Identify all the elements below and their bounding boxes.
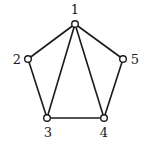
node-1 [72, 21, 79, 28]
node-label-1: 1 [71, 2, 79, 17]
node-label-2: 2 [13, 52, 21, 67]
node-label-3: 3 [44, 125, 52, 140]
edge-1-4 [75, 24, 104, 118]
nodes-group [25, 21, 127, 122]
edges-group [28, 24, 123, 118]
edge-1-2 [28, 24, 75, 59]
edge-1-3 [47, 24, 75, 118]
node-3 [44, 115, 51, 122]
node-2 [25, 56, 32, 63]
edge-4-5 [104, 59, 123, 118]
edge-2-3 [28, 59, 47, 118]
edge-1-5 [75, 24, 123, 59]
node-label-4: 4 [100, 125, 108, 140]
node-4 [101, 115, 108, 122]
node-label-5: 5 [131, 52, 139, 67]
node-5 [120, 56, 127, 63]
graph-diagram: 12345 [0, 0, 148, 146]
